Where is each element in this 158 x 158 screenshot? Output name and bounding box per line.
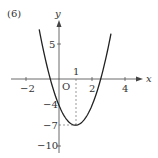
y-axis-label: y [54, 8, 61, 19]
x-tick-label: −2 [20, 83, 35, 94]
y-tick-label: −4 [43, 99, 58, 110]
x-tick-label: 4 [122, 83, 128, 94]
y-tick-label: 5 [49, 39, 55, 50]
problem-number: (6) [7, 8, 21, 19]
x-axis-label: x [146, 73, 152, 84]
y-tick-label: −7 [43, 120, 58, 131]
y-axis-arrow-icon [57, 20, 62, 27]
x-axis-arrow-icon [136, 77, 143, 82]
vertex-x-label: 1 [73, 66, 79, 77]
parabola-graph: (6) x y −2 2 4 O 1 5 −4 −7 −10 [0, 0, 158, 158]
origin-label: O [62, 81, 70, 92]
x-tick-label: 2 [89, 83, 95, 94]
y-tick-label: −10 [37, 140, 58, 151]
